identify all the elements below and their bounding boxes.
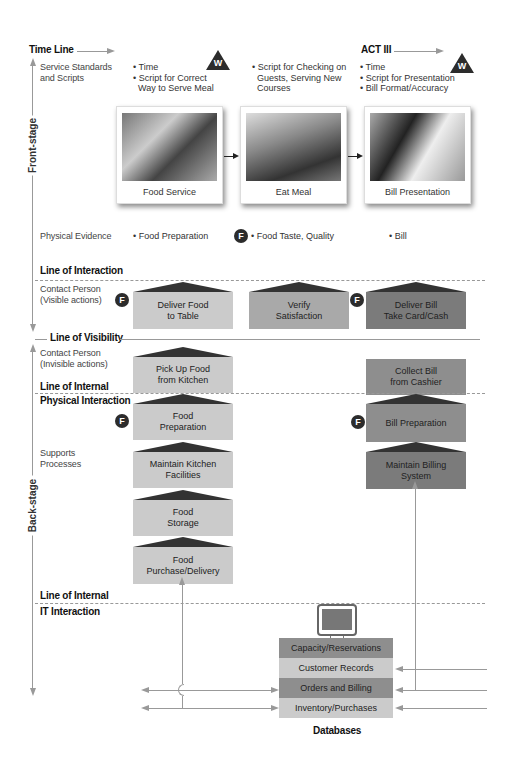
- script-item: • Script for Checking on: [252, 62, 346, 73]
- action-deliver-bill: Deliver BillTake Card/Cash: [366, 282, 466, 329]
- photo-eat-meal: Eat Meal: [240, 106, 347, 204]
- roof-shape: [133, 490, 233, 500]
- roof-shape: [366, 394, 466, 404]
- db-arrow-left: [395, 705, 403, 711]
- action-box: Deliver Foodto Table: [133, 292, 233, 329]
- front-stage-axis: [32, 64, 33, 326]
- visibility-line-left: [35, 339, 47, 340]
- line-of-interaction-label: Line of Interaction: [40, 265, 123, 277]
- line-of-internal-it: [35, 603, 485, 604]
- scripts-col1: • Time • Script for Correct Way to Serve…: [133, 62, 214, 94]
- time-line-arrow-head: [107, 48, 115, 54]
- flow-arrow-head: [357, 153, 363, 159]
- support-food-storage: FoodStorage: [133, 490, 233, 536]
- db-connector-line: [403, 690, 487, 691]
- act-label: ACT III: [361, 44, 391, 56]
- roof-shape: [249, 282, 349, 292]
- databases-title: Databases: [313, 725, 361, 737]
- line-of-visibility: [120, 339, 480, 340]
- service-standards-line2: and Scripts: [40, 73, 112, 84]
- wait-point-icon: W: [450, 53, 474, 73]
- line-hop: [178, 684, 184, 696]
- back-stage-arrow-down: [30, 688, 36, 696]
- time-line-label: Time Line: [29, 44, 74, 56]
- script-item: Way to Serve Meal: [133, 83, 214, 94]
- roof-shape: [133, 537, 233, 547]
- db-orders-billing: Orders and Billing: [279, 678, 393, 698]
- db-arrow-left: [141, 705, 149, 711]
- front-stage-arrow-down: [30, 324, 36, 332]
- action-box: FoodStorage: [133, 500, 233, 536]
- act-arrow-line: [394, 51, 436, 52]
- it-interaction-label: IT Interaction: [40, 606, 100, 618]
- scripts-col3: • Time • Script for Presentation • Bill …: [360, 62, 455, 94]
- photo-caption: Bill Presentation: [365, 187, 470, 197]
- db-arrow-left: [395, 687, 403, 693]
- fail-point-icon: F: [351, 415, 365, 429]
- front-stage-label: Front-stage: [27, 116, 38, 176]
- service-standards-label: Service Standards and Scripts: [40, 62, 112, 84]
- food-purchase-connector: [182, 584, 183, 684]
- roof-shape: [133, 442, 233, 452]
- script-item: Guests, Serving New: [252, 73, 346, 84]
- db-connector-line: [403, 669, 487, 670]
- food-purchase-connector: [182, 696, 183, 708]
- line-of-interaction: [35, 280, 485, 281]
- script-item: • Script for Correct: [133, 73, 214, 84]
- action-box: FoodPreparation: [133, 404, 233, 440]
- wait-point-icon: W: [206, 50, 230, 70]
- scripts-col2: • Script for Checking on Guests, Serving…: [252, 62, 346, 94]
- photo-food-service: Food Service: [116, 106, 223, 204]
- db-customer-records: Customer Records: [279, 658, 393, 678]
- supports-processes-label: Supports Processes: [40, 448, 81, 470]
- action-deliver-food: Deliver Foodto Table: [133, 282, 233, 329]
- computer-monitor-icon: [317, 604, 357, 636]
- bill-presentation-image: [370, 113, 465, 181]
- script-item: Courses: [252, 83, 346, 94]
- fail-point-icon: F: [115, 414, 129, 428]
- back-stage-label: Back-stage: [27, 476, 38, 536]
- action-box: Pick Up Foodfrom Kitchen: [133, 357, 233, 393]
- action-box: Deliver BillTake Card/Cash: [366, 292, 466, 329]
- time-line-arrow-line: [77, 51, 107, 52]
- script-item: • Time: [133, 62, 214, 73]
- action-box: Maintain KitchenFacilities: [133, 452, 233, 488]
- db-connector-line: [149, 708, 271, 709]
- db-connector-line: [403, 708, 487, 709]
- db-arrow-left: [141, 687, 149, 693]
- contact-invisible-label: Contact Person (Invisible actions): [40, 348, 108, 370]
- photo-caption: Food Service: [117, 187, 222, 197]
- action-collect-bill: Collect Billfrom Cashier: [366, 359, 466, 395]
- fail-point-icon: F: [115, 293, 129, 307]
- fail-point-icon: F: [350, 293, 364, 307]
- roof-shape: [133, 347, 233, 357]
- flow-arrow-head: [233, 153, 239, 159]
- photo-bill-presentation: Bill Presentation: [364, 106, 471, 204]
- evidence-col2: • Food Taste, Quality: [251, 231, 334, 242]
- roof-shape: [366, 282, 466, 292]
- front-stage-arrow-up: [30, 58, 36, 66]
- eat-meal-image: [246, 113, 341, 181]
- action-box: VerifySatisfaction: [249, 292, 349, 329]
- support-bill-preparation: Bill Preparation: [366, 394, 466, 442]
- evidence-col3: • Bill: [389, 231, 407, 242]
- photo-caption: Eat Meal: [241, 187, 346, 197]
- physical-evidence-label: Physical Evidence: [40, 231, 111, 242]
- act-arrow-head: [436, 48, 444, 54]
- contact-visible-label: Contact Person (Visible actions): [40, 284, 102, 306]
- line-of-visibility-label: Line of Visibility: [50, 332, 123, 344]
- service-standards-line1: Service Standards: [40, 62, 112, 73]
- db-capacity-reservations: Capacity/Reservations: [279, 638, 393, 658]
- db-arrow-right: [271, 687, 279, 693]
- script-item: • Script for Presentation: [360, 73, 455, 84]
- billing-connector: [415, 488, 416, 690]
- line-of-internal-label: Line of Internal: [40, 590, 108, 602]
- db-arrow-left: [395, 666, 403, 672]
- fail-point-icon: F: [234, 229, 248, 243]
- line-of-internal-label: Line of Internal: [40, 381, 108, 393]
- food-service-image: [122, 113, 217, 181]
- roof-shape: [133, 394, 233, 404]
- action-verify-satisfaction: VerifySatisfaction: [249, 282, 349, 329]
- roof-shape: [366, 442, 466, 452]
- support-maintain-kitchen: Maintain KitchenFacilities: [133, 442, 233, 488]
